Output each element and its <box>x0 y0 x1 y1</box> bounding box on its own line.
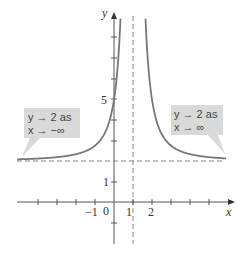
x-tick-label-0: 0 <box>103 204 109 218</box>
right-callout-line1: y → 2 as <box>174 108 218 120</box>
x-axis-label: x <box>225 205 232 219</box>
left-asymptote-callout: y → 2 as x → −∞ <box>22 108 80 157</box>
left-callout-line2: x → −∞ <box>28 124 65 136</box>
function-graph: y → 2 as x → −∞ y → 2 as x → ∞ −1 0 1 2 … <box>0 0 243 255</box>
left-callout-line1: y → 2 as <box>28 111 72 123</box>
y-axis-label: y <box>101 6 108 20</box>
y-axis-arrow-icon <box>111 12 117 19</box>
y-tick-label-5: 5 <box>101 93 107 107</box>
y-tick-label-1: 1 <box>103 175 109 189</box>
x-tick-label-neg1: −1 <box>85 205 98 219</box>
right-callout-line2: x → ∞ <box>174 121 204 133</box>
x-tick-label-2: 2 <box>148 205 154 219</box>
x-tick-label-1: 1 <box>126 205 132 219</box>
right-asymptote-callout: y → 2 as x → ∞ <box>171 105 225 154</box>
